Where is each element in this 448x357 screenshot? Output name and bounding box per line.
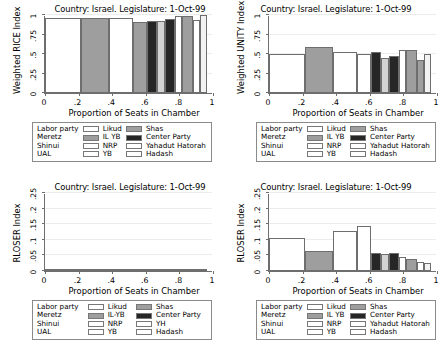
bar-hadash xyxy=(200,15,207,93)
y-tick-label: .15 xyxy=(29,219,38,231)
y-tick-label: .05 xyxy=(29,250,38,262)
x-tick xyxy=(403,93,404,96)
x-tick-label: .2 xyxy=(66,276,90,285)
x-tick-label: .2 xyxy=(290,276,314,285)
legend-swatch xyxy=(350,329,366,335)
bar-likud xyxy=(357,54,371,93)
gridline xyxy=(45,208,212,209)
x-tick-label: .4 xyxy=(323,98,347,107)
bar-il-yb xyxy=(147,21,157,93)
x-tick-label: .6 xyxy=(133,98,157,107)
legend-label: YB xyxy=(103,150,123,158)
y-tick-label: .5 xyxy=(253,51,262,58)
legend-swatch xyxy=(307,126,323,132)
y-tick-label: 1 xyxy=(29,14,38,19)
x-tick-label: 1 xyxy=(424,98,448,107)
y-tick-label: .2 xyxy=(253,206,262,213)
legend-swatch xyxy=(307,313,323,319)
x-tick xyxy=(336,271,337,274)
legend-label: UAL xyxy=(261,328,304,336)
x-tick-label: .8 xyxy=(390,276,414,285)
y-tick xyxy=(266,254,269,255)
plot-area xyxy=(268,16,436,94)
chart-legend: Labor partyLikudShasMeretzIL-YBCenter Pa… xyxy=(32,300,212,340)
x-tick-label: .4 xyxy=(99,98,123,107)
x-tick-label: 1 xyxy=(200,98,224,107)
y-tick xyxy=(266,34,269,35)
gridline xyxy=(45,254,212,255)
x-tick-label: .4 xyxy=(99,276,123,285)
legend-label: YB xyxy=(108,328,133,336)
y-tick-label: .05 xyxy=(253,250,262,262)
y-axis-label: Weighted UNITY Index xyxy=(236,16,246,94)
chart-legend: Labor partyLikudShasMeretzIL YBCenter Pa… xyxy=(256,300,436,340)
gridline xyxy=(269,34,436,35)
x-tick-label: 0 xyxy=(256,276,280,285)
chart-legend: Labor partyLikudShasMeretzIL YBCenter Pa… xyxy=(256,122,436,162)
gridline xyxy=(269,14,436,15)
y-tick xyxy=(266,223,269,224)
x-tick-label: .8 xyxy=(166,276,190,285)
x-tick xyxy=(303,271,304,274)
x-tick xyxy=(179,93,180,96)
y-tick xyxy=(266,239,269,240)
legend-swatch xyxy=(126,135,142,141)
legend-label: YB xyxy=(327,150,347,158)
x-tick xyxy=(269,271,270,274)
y-tick-label: .25 xyxy=(29,68,38,80)
x-axis-label: Proportion of Seats in Chamber xyxy=(0,108,246,118)
x-tick xyxy=(269,93,270,96)
legend-label: Hadash xyxy=(146,150,207,158)
x-tick xyxy=(146,271,147,274)
x-tick xyxy=(213,271,214,274)
bar-yh xyxy=(182,269,193,271)
legend-swatch xyxy=(126,151,142,157)
y-tick-label: 0 xyxy=(29,92,38,97)
y-axis-label: RLOSER Index xyxy=(12,194,22,272)
bar-meretz xyxy=(305,47,333,93)
legend-label: Hadash xyxy=(370,150,431,158)
bar-ual xyxy=(417,262,424,271)
legend-swatch xyxy=(350,313,366,319)
panel-unity: Country: Israel. Legislature: 1-Oct-99We… xyxy=(224,0,448,178)
y-tick-label: .25 xyxy=(253,68,262,80)
y-tick xyxy=(42,239,45,240)
y-tick xyxy=(42,208,45,209)
bar-hadash xyxy=(200,269,207,271)
panel-rloser-left: Country: Israel. Legislature: 1-Oct-99RL… xyxy=(0,178,224,356)
bar-labor-party xyxy=(269,238,305,271)
x-tick-label: .8 xyxy=(390,98,414,107)
x-tick xyxy=(146,93,147,96)
bar-meretz xyxy=(81,269,109,271)
bar-center-party xyxy=(157,269,165,271)
legend-swatch xyxy=(307,135,323,141)
x-tick-label: 1 xyxy=(424,276,448,285)
legend-swatch xyxy=(83,126,99,132)
y-tick-label: .15 xyxy=(253,219,262,231)
legend-label: UAL xyxy=(37,328,85,336)
gridline xyxy=(269,208,436,209)
x-tick xyxy=(437,271,438,274)
x-tick-label: 0 xyxy=(32,98,56,107)
y-tick xyxy=(42,192,45,193)
bar-labor-party xyxy=(45,269,81,271)
bar-shinui xyxy=(109,18,133,93)
x-tick xyxy=(403,271,404,274)
plot-area xyxy=(44,16,212,94)
bar-hadash xyxy=(424,54,431,93)
bar-nrp xyxy=(399,257,406,271)
bar-il-yb xyxy=(371,253,381,271)
bar-shas xyxy=(389,56,399,93)
x-tick-label: .2 xyxy=(66,98,90,107)
bar-nrp xyxy=(399,50,406,93)
bar-il-yb xyxy=(147,269,157,271)
bar-labor-party xyxy=(45,18,81,93)
legend-swatch xyxy=(350,304,366,310)
plot-area xyxy=(44,194,212,272)
x-tick xyxy=(213,93,214,96)
y-tick xyxy=(42,223,45,224)
y-tick-label: .2 xyxy=(29,206,38,213)
y-tick-label: .75 xyxy=(253,29,262,41)
x-tick xyxy=(45,93,46,96)
gridline xyxy=(269,223,436,224)
